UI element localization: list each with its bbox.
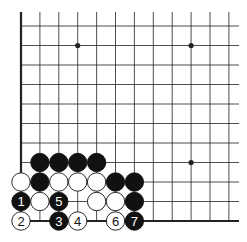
move-number-label: 2 <box>17 214 24 229</box>
star-point <box>75 43 80 48</box>
white-stone <box>50 173 68 191</box>
white-stone-disc <box>31 192 49 210</box>
white-stone <box>87 173 105 191</box>
white-stone <box>12 173 30 191</box>
move-number-label: 5 <box>55 194 62 209</box>
white-stone <box>87 192 105 210</box>
go-board: 1523467 <box>0 0 247 242</box>
white-stone <box>69 173 87 191</box>
black-stone <box>69 153 87 171</box>
black-stone <box>106 173 124 191</box>
move-number-label: 4 <box>74 214 81 229</box>
black-stone-3: 3 <box>50 212 68 230</box>
black-stone-disc <box>31 153 49 171</box>
white-stone <box>31 192 49 210</box>
move-number-label: 6 <box>112 214 119 229</box>
star-point <box>189 43 194 48</box>
black-stone-disc <box>50 153 68 171</box>
black-stone <box>125 173 143 191</box>
star-point <box>189 160 194 165</box>
black-stone <box>87 153 105 171</box>
black-stone <box>50 153 68 171</box>
white-stone <box>106 192 124 210</box>
white-stone-disc <box>50 173 68 191</box>
black-stone-5: 5 <box>50 192 68 210</box>
white-stone-disc <box>87 192 105 210</box>
move-number-label: 7 <box>131 214 138 229</box>
white-stone-4: 4 <box>69 212 87 230</box>
white-stone-disc <box>69 173 87 191</box>
move-number-label: 1 <box>17 194 24 209</box>
move-number-label: 3 <box>55 214 62 229</box>
white-stone-2: 2 <box>12 212 30 230</box>
white-stone-6: 6 <box>106 212 124 230</box>
black-stone-disc <box>106 173 124 191</box>
black-stone-disc <box>125 192 143 210</box>
black-stone <box>31 153 49 171</box>
black-stone-7: 7 <box>125 212 143 230</box>
white-stone-disc <box>106 192 124 210</box>
black-stone <box>125 192 143 210</box>
black-stone-disc <box>69 153 87 171</box>
black-stone-1: 1 <box>12 192 30 210</box>
black-stone-disc <box>125 173 143 191</box>
black-stone <box>31 173 49 191</box>
white-stone-disc <box>12 173 30 191</box>
black-stone-disc <box>87 153 105 171</box>
white-stone-disc <box>87 173 105 191</box>
black-stone-disc <box>31 173 49 191</box>
